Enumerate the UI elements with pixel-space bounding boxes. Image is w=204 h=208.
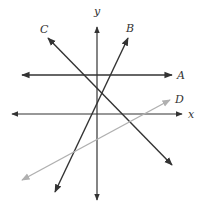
coordinate-plane-diagram: xyABCD [0, 0, 204, 208]
line-c-label: C [40, 23, 49, 36]
y-axis-label: y [93, 5, 101, 18]
x-axis-label: x [188, 108, 195, 121]
line-a-label: A [176, 69, 185, 82]
line-d-label: D [174, 93, 184, 106]
line-b [55, 38, 128, 192]
line-b-label: B [125, 22, 134, 35]
line-c [48, 38, 172, 165]
